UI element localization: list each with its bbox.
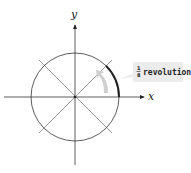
rotation-arrow-icon — [96, 70, 108, 93]
unit-circle-diagram: x y 1 8 revolution — [0, 0, 191, 173]
callout-label: 1 8 revolution — [133, 62, 191, 82]
y-axis-label: y — [70, 8, 78, 21]
highlighted-arc — [106, 66, 119, 97]
fraction-denominator: 8 — [137, 72, 141, 78]
origin-point — [74, 96, 77, 99]
x-axis-label: x — [148, 90, 155, 103]
callout-leader — [120, 73, 134, 79]
callout-text: revolution — [143, 67, 191, 77]
fraction-numerator: 1 — [137, 65, 141, 71]
